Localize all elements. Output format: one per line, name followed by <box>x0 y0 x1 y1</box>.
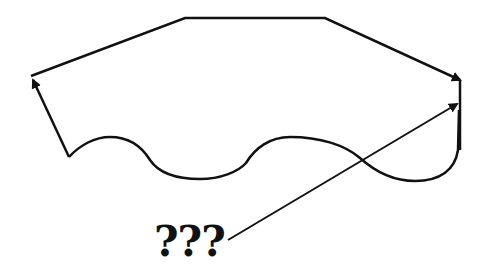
top-path-arrow <box>31 18 460 80</box>
left-arrow <box>33 80 69 157</box>
wavy-bottom-curve <box>69 110 459 181</box>
diagram-canvas <box>0 0 488 279</box>
pointer-arrow <box>228 104 457 240</box>
question-label: ??? <box>154 218 225 266</box>
